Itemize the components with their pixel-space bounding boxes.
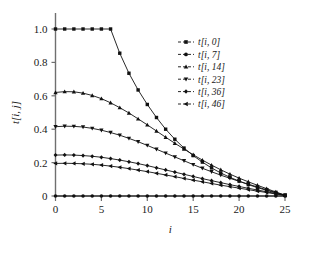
data-point-marker: [109, 156, 113, 160]
series-t-i-36: [54, 153, 287, 198]
series-t-i-23: [53, 124, 287, 197]
series-line: [56, 29, 286, 195]
x-tick-label: 20: [234, 203, 246, 215]
data-point-marker: [127, 166, 131, 170]
y-tick-label: 0.4: [34, 123, 48, 135]
data-point-marker: [182, 172, 186, 176]
data-point-marker: [173, 170, 177, 174]
data-point-marker: [209, 163, 213, 167]
data-point-marker: [136, 168, 140, 172]
data-point-marker: [62, 161, 66, 165]
data-point-marker: [127, 111, 131, 115]
series-t-i-7: [54, 194, 287, 198]
data-point-marker: [136, 161, 140, 165]
data-point-marker: [109, 194, 113, 198]
data-point-marker: [136, 117, 140, 121]
data-point-marker: [136, 194, 140, 198]
y-axis-title: t[i, j]: [9, 101, 21, 124]
x-axis-tick-labels: 0510152025: [53, 203, 291, 215]
x-tick-label: 10: [142, 203, 154, 215]
data-point-marker: [154, 171, 158, 175]
legend-label: t[i, 36]: [198, 87, 225, 97]
data-point-marker: [210, 194, 214, 198]
data-point-marker: [164, 135, 168, 139]
data-point-marker: [145, 169, 149, 173]
legend-marker: [184, 40, 188, 44]
data-point-marker: [81, 153, 85, 157]
series-line: [56, 163, 286, 195]
data-point-marker: [136, 88, 139, 91]
data-point-marker: [54, 153, 58, 157]
data-point-marker: [118, 52, 121, 55]
legend-marker: [184, 89, 188, 94]
data-point-marker: [191, 174, 195, 178]
x-tick-label: 5: [99, 203, 105, 215]
data-point-marker: [191, 194, 195, 198]
data-point-marker: [155, 194, 159, 198]
data-point-marker: [63, 194, 67, 198]
data-point-marker: [63, 153, 67, 157]
data-point-marker: [118, 165, 122, 169]
data-point-marker: [163, 173, 167, 177]
series-t-i-14: [53, 89, 287, 196]
y-tick-label: 0: [42, 190, 48, 202]
data-point-marker: [127, 160, 131, 164]
data-point-marker: [146, 194, 150, 198]
data-point-marker: [81, 194, 85, 198]
data-point-marker: [200, 158, 204, 162]
data-point-marker: [72, 161, 76, 165]
legend-item[interactable]: t[i, 36]: [178, 87, 225, 97]
data-point-marker: [182, 194, 186, 198]
data-point-marker: [246, 194, 250, 198]
data-point-marker: [201, 194, 205, 198]
legend-label: t[i, 0]: [198, 37, 220, 47]
legend-item[interactable]: t[i, 14]: [178, 62, 225, 72]
data-point-marker: [164, 194, 168, 198]
data-point-marker: [118, 194, 122, 198]
x-tick-label: 0: [53, 203, 59, 215]
data-point-marker: [154, 129, 158, 133]
data-point-marker: [145, 163, 149, 167]
legend-item[interactable]: t[i, 7]: [178, 50, 220, 60]
data-point-marker: [90, 154, 94, 158]
series-line: [56, 155, 286, 195]
chart-figure: 00.20.40.60.81.0 0510152025 t[i, 0]t[i, …: [0, 0, 311, 255]
legend-item[interactable]: t[i, 0]: [178, 37, 220, 47]
x-axis-tick-marks: [56, 196, 286, 201]
x-axis-title: i: [169, 223, 172, 235]
data-point-marker: [228, 194, 232, 198]
data-point-marker: [91, 27, 94, 30]
line-chart: 00.20.40.60.81.0 0510152025 t[i, 0]t[i, …: [0, 0, 311, 255]
series-line: [56, 126, 286, 195]
data-point-marker: [118, 105, 122, 109]
y-tick-label: 0.6: [34, 90, 48, 102]
x-tick-label: 25: [280, 203, 292, 215]
data-series-layer: [53, 27, 287, 197]
data-point-marker: [72, 153, 76, 157]
data-point-marker: [108, 164, 112, 168]
data-point-marker: [265, 194, 269, 198]
legend-item[interactable]: t[i, 23]: [178, 75, 225, 85]
y-tick-label: 1.0: [34, 23, 48, 35]
data-point-marker: [127, 194, 131, 198]
data-point-marker: [173, 194, 177, 198]
legend-item[interactable]: t[i, 46]: [178, 99, 225, 109]
data-point-marker: [191, 178, 195, 182]
data-point-marker: [127, 72, 130, 75]
data-point-marker: [99, 163, 103, 167]
data-point-marker: [237, 194, 241, 198]
data-point-marker: [155, 166, 159, 170]
legend-marker: [184, 53, 188, 57]
data-point-marker: [256, 194, 260, 198]
series-t-i-0: [54, 27, 287, 197]
data-point-marker: [145, 123, 149, 127]
data-point-marker: [90, 162, 94, 166]
legend-label: t[i, 7]: [198, 50, 220, 60]
legend-label: t[i, 46]: [198, 99, 225, 109]
y-axis-tick-labels: 00.20.40.60.81.0: [34, 23, 48, 202]
data-point-marker: [155, 116, 158, 119]
data-point-marker: [100, 194, 104, 198]
data-point-marker: [173, 138, 176, 141]
data-point-marker: [54, 194, 58, 198]
legend-marker: [184, 102, 188, 107]
